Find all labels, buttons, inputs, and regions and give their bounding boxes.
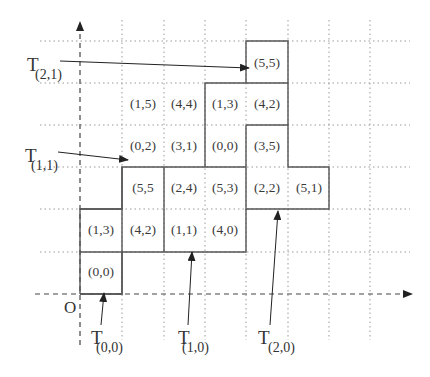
cell-label: (4,0) — [212, 222, 238, 237]
tiling-diagram: (0,0) (1,3) (4,2) (1,1) (4,0) (5,5 (2,4)… — [0, 0, 430, 377]
cell-label: (2,4) — [171, 180, 197, 195]
tile-label-t11: T (1,1) — [25, 145, 58, 174]
svg-text:(1,0): (1,0) — [182, 340, 209, 356]
arrow-t00 — [101, 293, 104, 325]
cell-label: (3,1) — [171, 138, 197, 153]
cell-label: (1,3) — [212, 96, 238, 111]
cell-label: (5,5) — [254, 55, 280, 70]
arrow-t11 — [58, 152, 128, 160]
svg-text:(1,1): (1,1) — [31, 158, 58, 174]
tile-label-t21: T (2,1) — [27, 54, 62, 83]
cell-label: (0,2) — [130, 138, 156, 153]
arrow-t10 — [188, 252, 192, 325]
cell-label: (1,3) — [88, 222, 114, 237]
arrow-t20 — [270, 211, 278, 325]
arrow-t21 — [60, 61, 249, 68]
origin-label: O — [64, 298, 76, 317]
svg-text:(2,0): (2,0) — [268, 340, 295, 356]
tile-label-t10: T (1,0) — [178, 327, 209, 356]
cell-label: (1,1) — [171, 222, 197, 237]
cell-label: (4,2) — [254, 96, 280, 111]
cell-label: (5,1) — [296, 180, 322, 195]
cell-label: (5,3) — [212, 180, 238, 195]
tile-label-t00: T (0,0) — [91, 327, 123, 356]
tile-label-t20: T (2,0) — [258, 327, 295, 356]
tile-pointer-arrows — [58, 61, 278, 325]
cell-label: (3,5) — [254, 138, 280, 153]
cell-label: (1,5) — [130, 96, 156, 111]
cell-label: (4,2) — [130, 222, 156, 237]
svg-text:(0,0): (0,0) — [96, 340, 123, 356]
cell-label: (4,4) — [171, 96, 197, 111]
svg-text:(2,1): (2,1) — [35, 67, 62, 83]
cell-label: (5,5 — [132, 180, 154, 195]
cell-label: (0,0) — [88, 264, 114, 279]
cell-label: (2,2) — [254, 180, 280, 195]
cell-label: (0,0) — [212, 138, 238, 153]
